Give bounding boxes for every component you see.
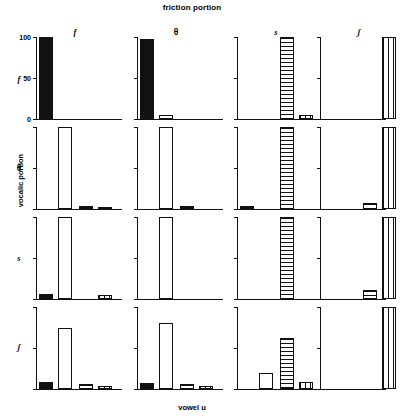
- panel-row-f-col-th: [137, 37, 223, 120]
- row-label-theta: θ: [12, 163, 26, 173]
- bar-sh-100: [382, 37, 396, 119]
- panel-row-f-col-s: [237, 37, 323, 120]
- bar-sh-100: [382, 307, 396, 389]
- bar-sh-100: [382, 217, 396, 299]
- y-tick-100: [317, 307, 321, 308]
- bar-sh-4: [199, 386, 213, 389]
- y-tick-50: 50: [33, 78, 37, 79]
- y-tick-50: [33, 258, 37, 259]
- bar-s-100: [280, 217, 294, 299]
- bar-s-62: [280, 338, 294, 389]
- x-axis-baseline: [137, 209, 223, 210]
- y-tick-100: [33, 217, 37, 218]
- y-tick-100: [317, 217, 321, 218]
- bar-th-80: [159, 323, 173, 389]
- bar-f-9: [39, 382, 53, 389]
- panel-row-s-col-sh: [320, 217, 400, 300]
- bar-th-100: [58, 217, 72, 299]
- y-tick-100: [234, 307, 238, 308]
- bar-s-6: [79, 384, 93, 389]
- x-axis-baseline: [137, 299, 223, 300]
- y-tick-100: [234, 217, 238, 218]
- x-axis-baseline: [36, 389, 122, 390]
- x-axis-baseline: [237, 299, 323, 300]
- bar-th-20: [259, 373, 273, 389]
- column-header-theta: θ: [163, 27, 189, 37]
- figure-bottom-title: vowel u: [0, 403, 384, 412]
- y-tick-label-50: 50: [23, 75, 31, 82]
- y-tick-50: [134, 78, 138, 79]
- y-tick-50: [234, 258, 238, 259]
- column-header-esh: ʃ: [346, 27, 372, 37]
- y-tick-50: [317, 258, 321, 259]
- panel-row-f-col-f: 100500: [36, 37, 122, 120]
- column-header-s: s: [263, 27, 289, 37]
- y-tick-50: [134, 348, 138, 349]
- bar-sh-3: [98, 207, 112, 209]
- y-tick-50: [134, 168, 138, 169]
- panel-row-s-col-f: [36, 217, 122, 300]
- x-axis-baseline: [320, 119, 386, 120]
- y-tick-100: [134, 127, 138, 128]
- y-tick-100: [234, 37, 238, 38]
- panel-row-sh-col-sh: [320, 307, 400, 390]
- bar-s-4: [79, 206, 93, 209]
- x-axis-baseline: [320, 389, 386, 390]
- y-tick-100: [33, 307, 37, 308]
- y-tick-100: [317, 37, 321, 38]
- bar-sh-5: [299, 115, 313, 119]
- y-tick-50: [234, 168, 238, 169]
- x-axis-baseline: [36, 209, 122, 210]
- y-tick-100: [33, 127, 37, 128]
- x-axis-baseline: [320, 209, 386, 210]
- bar-th-100: [58, 127, 72, 209]
- y-tick-100: [317, 127, 321, 128]
- y-tick-50: [134, 258, 138, 259]
- panel-row-s-col-th: [137, 217, 223, 300]
- panel-row-sh-col-f: [36, 307, 122, 390]
- panel-row-th-col-f: [36, 127, 122, 210]
- y-tick-50: [33, 348, 37, 349]
- panel-row-th-col-s: [237, 127, 323, 210]
- y-tick-50: [317, 168, 321, 169]
- y-tick-100: [134, 307, 138, 308]
- bar-f-100: [39, 37, 53, 119]
- y-tick-50: [234, 78, 238, 79]
- panel-row-th-col-sh: [320, 127, 400, 210]
- bar-th-75: [58, 328, 72, 390]
- panel-row-sh-col-th: [137, 307, 223, 390]
- y-tick-50: [33, 168, 37, 169]
- panel-row-th-col-th: [137, 127, 223, 210]
- bar-s-4: [180, 206, 194, 209]
- bar-s-100: [280, 37, 294, 119]
- x-axis-baseline: [36, 299, 122, 300]
- x-axis-baseline: [36, 119, 122, 120]
- y-tick-100: [234, 127, 238, 128]
- bar-f-4: [240, 206, 254, 209]
- bar-s-11: [363, 290, 377, 299]
- bar-th-5: [159, 115, 173, 119]
- y-tick-label-100: 100: [19, 34, 31, 41]
- y-tick-50: [317, 348, 321, 349]
- y-tick-50: [234, 348, 238, 349]
- bar-th-100: [159, 127, 173, 209]
- x-axis-baseline: [320, 299, 386, 300]
- panel-row-s-col-s: [237, 217, 323, 300]
- row-label-s: s: [12, 253, 26, 263]
- bar-sh-100: [382, 127, 396, 209]
- bar-f-6: [39, 294, 53, 299]
- bar-sh-5: [98, 295, 112, 299]
- x-axis-baseline: [137, 119, 223, 120]
- bar-f-97: [140, 39, 154, 119]
- x-axis-baseline: [237, 209, 323, 210]
- bar-s-6: [180, 384, 194, 389]
- bar-th-100: [159, 217, 173, 299]
- y-tick-100: [134, 37, 138, 38]
- x-axis-baseline: [237, 389, 323, 390]
- bar-sh-4: [98, 386, 112, 389]
- bar-s-100: [280, 127, 294, 209]
- bar-f-7: [140, 383, 154, 389]
- x-axis-baseline: [137, 389, 223, 390]
- y-tick-label-0: 0: [27, 116, 31, 123]
